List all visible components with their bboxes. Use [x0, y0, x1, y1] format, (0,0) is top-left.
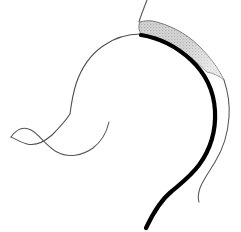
anatomical-line-drawing	[0, 0, 241, 232]
figure-background	[0, 0, 241, 232]
figure-canvas: Anatomical line drawing Stippled crescen…	[0, 0, 241, 232]
